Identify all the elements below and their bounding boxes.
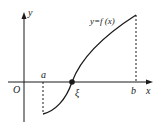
point-b-label: b bbox=[131, 86, 136, 96]
x-axis-arrow-icon bbox=[146, 80, 153, 85]
curve-f bbox=[43, 15, 136, 114]
xi-point bbox=[69, 79, 75, 85]
y-axis-arrow-icon bbox=[22, 12, 27, 19]
point-a-label: a bbox=[41, 70, 46, 80]
plot-canvas bbox=[0, 0, 157, 140]
origin-label: O bbox=[13, 85, 20, 95]
x-axis-label: x bbox=[146, 86, 150, 96]
y-axis-label: y bbox=[28, 8, 32, 18]
point-xi-label: ξ bbox=[75, 88, 79, 98]
curve-label: y=f (x) bbox=[90, 17, 115, 26]
diagram: y x O a b ξ y=f (x) bbox=[0, 0, 157, 140]
